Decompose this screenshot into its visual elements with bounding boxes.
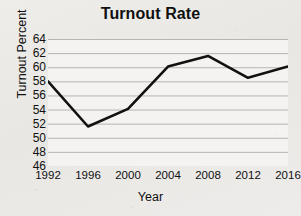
y-tick-label: 62: [4, 46, 46, 60]
y-axis-tick-labels: 46485052545658606264: [0, 0, 46, 216]
chart-figure: Turnout Rate Turnout Percent Year 464850…: [0, 0, 301, 216]
plot-area: [48, 39, 288, 166]
turnout-rate-line-series: [48, 39, 288, 166]
y-tick-label: 52: [4, 117, 46, 131]
x-tick-label: 1996: [75, 169, 101, 181]
y-tick-label: 56: [4, 88, 46, 102]
x-tick-label: 2000: [115, 169, 141, 181]
x-tick-label: 2004: [155, 169, 181, 181]
data-polyline: [48, 56, 288, 127]
y-tick-label: 60: [4, 60, 46, 74]
y-tick-label: 64: [4, 32, 46, 46]
x-tick-label: 2012: [235, 169, 261, 181]
y-tick-label: 50: [4, 131, 46, 145]
x-tick-label: 2008: [195, 169, 221, 181]
x-tick-label: 2016: [275, 169, 301, 181]
y-tick-label: 54: [4, 103, 46, 117]
x-tick-label: 1992: [35, 169, 61, 181]
y-tick-label: 58: [4, 74, 46, 88]
y-tick-label: 48: [4, 145, 46, 159]
